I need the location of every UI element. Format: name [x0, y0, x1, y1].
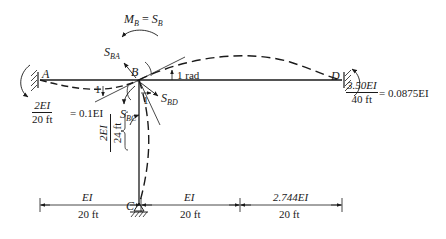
dim-stiffness-3: 2.744EI [273, 192, 308, 203]
dim-length-3: 20 ft [279, 209, 299, 220]
diagram-drawing [0, 0, 446, 239]
deflected-shape-BD [139, 56, 342, 80]
joint-label-B: B [131, 66, 138, 78]
stiffness-label-SBA: SBA [104, 46, 120, 61]
stiffness-fraction-BD: 3.50EI 40 ft [346, 80, 378, 105]
S-BC-arrow [124, 86, 135, 104]
stiffness-label-SBD: SBD [161, 92, 178, 107]
stiffness-result-BD: = 0.0875EI [379, 88, 429, 99]
applied-moment-arrow [122, 30, 158, 37]
dim-stiffness-1: EI [82, 192, 92, 203]
dim-length-2: 20 ft [180, 209, 200, 220]
stiffness-fraction-AB: 2EI 20 ft [32, 100, 52, 125]
dim-stiffness-2: EI [184, 192, 194, 203]
frame-diagram: A B C D MB = SB SBA SBD SBC 1 rad 1 1 2E… [0, 0, 446, 239]
stiffness-fraction-BC: 2EI 24 ft [98, 114, 123, 152]
moment-label: MB = SB [124, 13, 163, 28]
rotation-label: 1 rad [177, 70, 199, 81]
fixed-support-A [21, 65, 38, 97]
joint-label-C: C [126, 200, 134, 212]
joint-label-A: A [42, 68, 49, 80]
dim-length-1: 20 ft [78, 209, 98, 220]
joint-label-D: D [331, 70, 340, 82]
unit-mark-AB: 1 [95, 84, 101, 95]
unit-mark-BC: 1 [143, 95, 149, 106]
